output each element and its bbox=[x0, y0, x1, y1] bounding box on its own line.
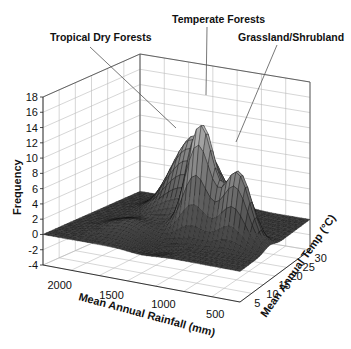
chart-canvas: 181614121086420-2-4200015001000500510152… bbox=[0, 0, 351, 349]
z-tick-label: 4 bbox=[32, 198, 38, 210]
y-tick-label: 5 bbox=[254, 297, 260, 309]
z-tick-label: 16 bbox=[26, 106, 38, 118]
z-tick-label: 10 bbox=[26, 152, 38, 164]
z-tick-label: 14 bbox=[26, 122, 38, 134]
z-tick-label: 12 bbox=[26, 137, 38, 149]
z-tick-label: 6 bbox=[32, 183, 38, 195]
z-tick-label: 8 bbox=[32, 167, 38, 179]
x-axis-title: Mean Annual Rainfall (mm) bbox=[77, 290, 216, 338]
annotations: Tropical Dry Forests Temperate Forests G… bbox=[50, 13, 344, 142]
x-tick-label: 500 bbox=[206, 308, 224, 320]
z-tick-label: -2 bbox=[28, 244, 38, 256]
x-tick-label: 2000 bbox=[47, 279, 71, 291]
y-tick-label: 30 bbox=[315, 252, 327, 264]
annotation-tropical-dry-forests: Tropical Dry Forests bbox=[50, 31, 152, 43]
annotation-temperate-forests: Temperate Forests bbox=[172, 13, 265, 25]
surface-chart: 181614121086420-2-4200015001000500510152… bbox=[0, 0, 351, 349]
z-tick-label: 2 bbox=[32, 213, 38, 225]
z-axis-title: Frequency bbox=[11, 158, 23, 215]
surface-mesh bbox=[43, 126, 310, 272]
x-tick-label: 1000 bbox=[151, 298, 175, 310]
annotation-grassland-shrubland: Grassland/Shrubland bbox=[238, 31, 344, 43]
z-tick-label: 18 bbox=[26, 91, 38, 103]
z-tick-label: -4 bbox=[28, 259, 38, 271]
z-tick-label: 0 bbox=[32, 228, 38, 240]
